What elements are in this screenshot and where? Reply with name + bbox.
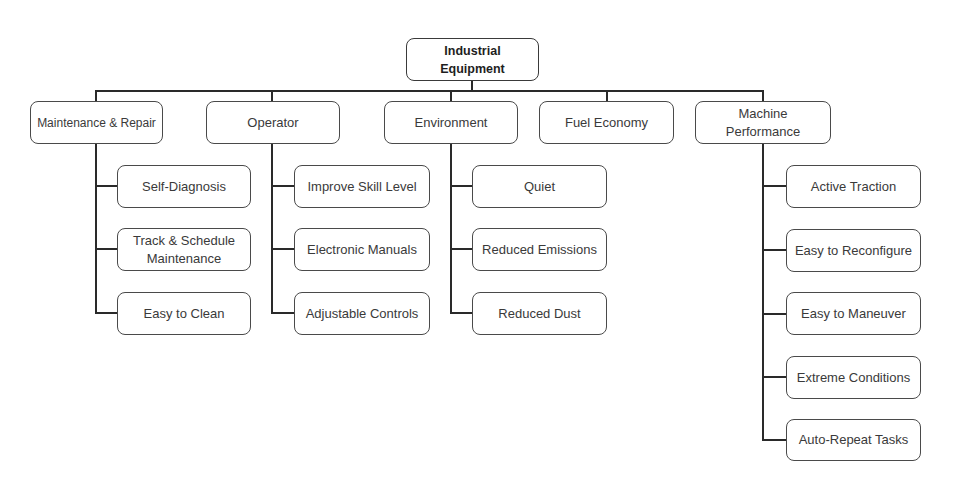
branch-tick xyxy=(271,185,294,187)
category-operator: Operator xyxy=(206,101,340,144)
category-label: Environment xyxy=(415,114,488,132)
feature-label: Reduced Emissions xyxy=(482,241,597,259)
feature-label: Easy to Reconfigure xyxy=(795,242,912,260)
main-bus-line xyxy=(95,90,764,92)
root-label: Industrial Equipment xyxy=(411,42,534,78)
feature-node: Self-Diagnosis xyxy=(117,165,251,208)
feature-node: Easy to Reconfigure xyxy=(786,229,921,272)
branch-tick xyxy=(762,185,786,187)
category-label: Machine Performance xyxy=(722,105,804,141)
feature-label: Improve Skill Level xyxy=(307,178,416,196)
feature-node: Auto-Repeat Tasks xyxy=(786,419,921,461)
branch-tick xyxy=(450,248,472,250)
feature-label: Self-Diagnosis xyxy=(142,178,226,196)
category-label: Fuel Economy xyxy=(565,114,648,132)
branch-tick xyxy=(762,249,786,251)
category-environment: Environment xyxy=(384,101,518,144)
category-machine-performance: Machine Performance xyxy=(695,101,831,144)
category-label: Operator xyxy=(247,114,298,132)
branch-spine-machine xyxy=(762,143,764,440)
branch-tick xyxy=(271,248,294,250)
branch-tick xyxy=(95,248,117,250)
org-chart-diagram: Industrial Equipment Maintenance & Repai… xyxy=(0,0,955,480)
branch-spine-environment xyxy=(450,143,452,313)
branch-tick xyxy=(450,312,472,314)
category-fuel-economy: Fuel Economy xyxy=(539,101,674,144)
feature-node: Quiet xyxy=(472,165,607,208)
feature-label: Easy to Clean xyxy=(144,305,225,323)
feature-label: Electronic Manuals xyxy=(307,241,417,259)
feature-label: Active Traction xyxy=(811,178,896,196)
feature-node: Easy to Maneuver xyxy=(786,292,921,335)
feature-node: Track & Schedule Maintenance xyxy=(117,228,251,271)
branch-tick xyxy=(95,312,117,314)
feature-label: Quiet xyxy=(524,178,555,196)
branch-tick xyxy=(271,312,294,314)
branch-spine-maintenance xyxy=(95,143,97,313)
feature-label: Track & Schedule Maintenance xyxy=(128,232,240,268)
feature-label: Easy to Maneuver xyxy=(801,305,906,323)
feature-node: Extreme Conditions xyxy=(786,356,921,399)
feature-node: Reduced Emissions xyxy=(472,228,607,271)
category-maintenance-repair: Maintenance & Repair xyxy=(30,101,163,144)
feature-node: Electronic Manuals xyxy=(294,228,430,271)
feature-label: Reduced Dust xyxy=(498,305,580,323)
feature-node: Adjustable Controls xyxy=(294,292,430,335)
branch-tick xyxy=(762,439,786,441)
feature-node: Active Traction xyxy=(786,165,921,208)
feature-label: Extreme Conditions xyxy=(797,369,910,387)
branch-tick xyxy=(762,376,786,378)
branch-tick xyxy=(95,185,117,187)
branch-tick xyxy=(450,185,472,187)
branch-tick xyxy=(762,313,786,315)
category-label: Maintenance & Repair xyxy=(37,114,156,132)
feature-label: Adjustable Controls xyxy=(306,305,419,323)
feature-node: Reduced Dust xyxy=(472,292,607,335)
root-node: Industrial Equipment xyxy=(406,38,539,81)
branch-spine-operator xyxy=(271,143,273,313)
feature-label: Auto-Repeat Tasks xyxy=(799,431,909,449)
feature-node: Improve Skill Level xyxy=(294,165,430,208)
feature-node: Easy to Clean xyxy=(117,292,251,335)
